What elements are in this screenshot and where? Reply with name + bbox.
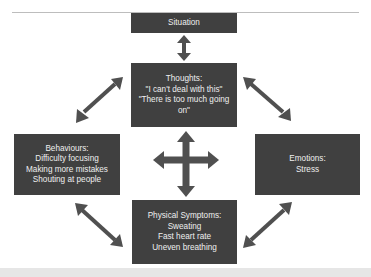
emotions-line: Stress (296, 165, 319, 176)
emotions-box: Emotions: Stress (255, 134, 360, 195)
thoughts-line: on" (178, 106, 190, 117)
double-arrow-behaviours-physical (75, 203, 123, 247)
behaviours-box: Behaviours: Difficulty focusing Making m… (14, 134, 120, 195)
physical-line: Uneven breathing (152, 243, 217, 254)
double-arrow-emotions-physical (243, 202, 292, 248)
thoughts-box: Thoughts: "I can't deal with this" "Ther… (131, 63, 237, 127)
emotions-heading: Emotions: (289, 154, 325, 165)
behaviours-line: Making more mistakes (26, 165, 108, 176)
physical-symptoms-box: Physical Symptoms: Sweating Fast heart r… (132, 200, 237, 264)
behaviours-heading: Behaviours: (45, 144, 88, 155)
double-arrow-thoughts-behaviours (76, 77, 123, 123)
behaviours-line: Shouting at people (33, 175, 101, 186)
physical-line: Fast heart rate (158, 232, 211, 243)
physical-heading: Physical Symptoms: (148, 211, 222, 222)
thoughts-heading: Thoughts: (166, 74, 202, 85)
double-arrow-situation-thoughts (177, 35, 191, 61)
behaviours-line: Difficulty focusing (35, 154, 99, 165)
four-way-arrow (153, 131, 219, 197)
thoughts-line: "I can't deal with this" (145, 85, 222, 96)
bottom-band (0, 268, 371, 277)
situation-box: Situation (131, 13, 237, 33)
double-arrow-thoughts-emotions (243, 77, 291, 121)
physical-line: Sweating (168, 222, 202, 233)
situation-line: Situation (168, 18, 200, 29)
thoughts-line: "There is too much going (139, 95, 230, 106)
